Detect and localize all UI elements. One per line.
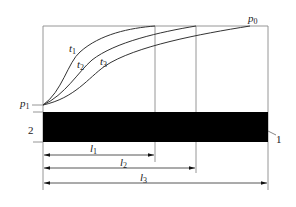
label-t3: t3	[100, 56, 107, 69]
label-p1: p1	[20, 98, 30, 111]
label-part-2: 2	[28, 125, 34, 136]
label-p0: p0	[248, 13, 258, 26]
diagram-canvas	[0, 0, 296, 207]
pressure-curves	[43, 26, 250, 105]
label-t1: t1	[69, 43, 76, 56]
curve-t1	[43, 26, 155, 105]
frame	[32, 26, 268, 190]
label-part-1: 1	[276, 134, 282, 145]
black-bar-part	[43, 112, 268, 142]
label-l1: l1	[90, 143, 97, 156]
label-t2: t2	[77, 59, 84, 72]
leader-line-1	[268, 131, 276, 135]
dimension-arrows	[44, 155, 267, 183]
curve-t3	[43, 26, 250, 105]
curve-t2	[43, 26, 196, 105]
label-l3: l3	[140, 172, 147, 185]
label-l2: l2	[120, 157, 127, 170]
